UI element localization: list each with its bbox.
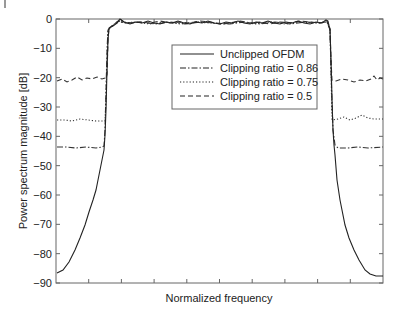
y-tick-label: −50 — [33, 160, 52, 172]
legend-label-unclipped: Unclipped OFDM — [220, 48, 304, 60]
y-tick-label: −80 — [33, 248, 52, 260]
y-tick-label: −20 — [33, 72, 52, 84]
chart: 0−10−20−30−40−50−60−70−80−90 Unclipped O… — [0, 0, 398, 315]
y-tick-label: −70 — [33, 218, 52, 230]
legend-label-clip-0.75: Clipping ratio = 0.75 — [220, 76, 318, 88]
legend-label-clip-0.86: Clipping ratio = 0.86 — [220, 62, 318, 74]
legend-label-clip-0.5: Clipping ratio = 0.5 — [220, 90, 312, 102]
y-tick-label: −30 — [33, 101, 52, 113]
x-axis-label: Normalized frequency — [166, 292, 273, 304]
y-axis-label: Power spectrum magnitude [dB] — [17, 73, 29, 230]
y-tick-label: −10 — [33, 42, 52, 54]
y-tick-label: −60 — [33, 189, 52, 201]
y-tick-label: −90 — [33, 277, 52, 289]
y-tick-label: −40 — [33, 130, 52, 142]
y-tick-label: 0 — [46, 13, 52, 25]
legend: Unclipped OFDM Clipping ratio = 0.86 Cli… — [172, 45, 318, 109]
